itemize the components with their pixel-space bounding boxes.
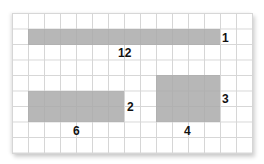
height-label-1: 1	[222, 32, 229, 44]
height-label-3: 3	[222, 93, 229, 105]
height-label-2: 2	[127, 101, 134, 113]
rectangle-12-by-1	[28, 29, 220, 45]
rectangle-4-by-3	[156, 75, 220, 122]
width-label-12: 12	[118, 47, 131, 59]
width-label-6: 6	[73, 125, 80, 137]
width-label-4: 4	[184, 125, 191, 137]
rectangle-6-by-2	[28, 91, 124, 122]
